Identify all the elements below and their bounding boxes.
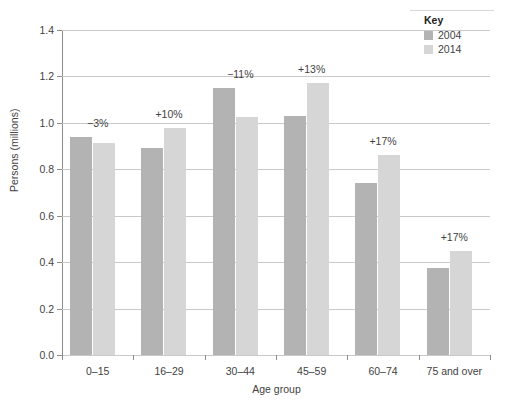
bar-2014 [236,117,258,355]
x-tick-label: 16–29 [133,365,204,377]
bar-2014 [450,251,472,355]
legend-items: 20042014 [424,29,494,55]
bar-group: −11%30–44 [205,30,276,355]
bar-group-annotation: +17% [419,231,490,243]
legend-item-2014[interactable]: 2014 [424,43,494,55]
bar-2004 [355,183,377,355]
bar-2014 [93,143,115,355]
y-tick-label: 1.0 [39,117,54,129]
x-tick-label: 75 and over [419,365,490,377]
legend-title: Key [424,14,494,26]
legend-divider [410,10,494,11]
x-tick-mark [490,355,491,360]
x-tick-mark [205,355,206,360]
y-tick-label: 0.2 [39,303,54,315]
x-tick-mark [276,355,277,360]
bar-group-annotation: −11% [205,68,276,80]
bar-2014 [164,128,186,356]
x-tick-mark [62,355,63,360]
bar-2004 [284,116,306,355]
bar-group: +13%45–59 [276,30,347,355]
legend-label: 2004 [438,29,461,41]
y-axis-title: Persons (millions) [8,109,20,192]
y-tick-label: 0.6 [39,210,54,222]
legend-swatch-icon [424,45,433,54]
plot-area: 0.00.20.40.60.81.01.21.4 −3%0–15+10%16–2… [62,30,490,355]
bar-2004 [141,148,163,355]
y-tick-label: 0.4 [39,256,54,268]
x-tick-label: 0–15 [62,365,133,377]
legend-label: 2014 [438,43,461,55]
bar-group-annotation: +17% [347,135,418,147]
bar-group-annotation: −3% [62,117,133,129]
bar-chart: Persons (millions) 0.00.20.40.60.81.01.2… [0,0,514,405]
legend: Key 20042014 [424,14,494,55]
bar-group: +10%16–29 [133,30,204,355]
bar-2004 [70,137,92,355]
bar-2004 [213,88,235,355]
bar-group: −3%0–15 [62,30,133,355]
y-tick-label: 0.0 [39,349,54,361]
bar-2004 [427,268,449,355]
bar-2014 [378,155,400,355]
legend-item-2004[interactable]: 2004 [424,29,494,41]
bar-group-annotation: +10% [133,108,204,120]
y-tick-label: 1.2 [39,70,54,82]
x-tick-mark [133,355,134,360]
bar-group: +17%60–74 [347,30,418,355]
x-axis-title: Age group [62,383,491,395]
y-tick-label: 0.8 [39,163,54,175]
y-tick-label: 1.4 [39,24,54,36]
bar-group: +17%75 and over [419,30,490,355]
legend-swatch-icon [424,31,433,40]
bar-group-annotation: +13% [276,63,347,75]
x-tick-mark [347,355,348,360]
x-tick-label: 60–74 [347,365,418,377]
bar-2014 [307,83,329,355]
x-tick-label: 45–59 [276,365,347,377]
x-tick-label: 30–44 [205,365,276,377]
x-tick-mark [419,355,420,360]
